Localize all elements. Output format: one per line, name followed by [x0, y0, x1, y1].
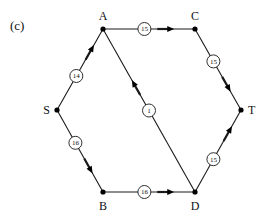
node-B: B	[99, 189, 107, 213]
node-label: A	[99, 9, 108, 23]
node-A: A	[99, 9, 108, 32]
node-S: S	[43, 103, 59, 117]
arrowhead-icon	[167, 189, 174, 195]
node-label: S	[43, 103, 50, 117]
node-T: T	[238, 103, 256, 117]
node-dot	[100, 26, 105, 31]
node-label: C	[191, 9, 199, 23]
edges-group: 1415151616151	[57, 23, 241, 199]
edge-weight-label: 1	[147, 107, 151, 115]
edge-weight-label: 15	[210, 58, 218, 66]
edge-C-T: 15	[195, 29, 241, 110]
node-label: B	[99, 199, 107, 213]
edge-weight-label: 15	[210, 156, 218, 164]
edge-B-D: 16	[103, 186, 195, 199]
node-dot	[192, 189, 197, 194]
edge-weight-label: 15	[141, 25, 149, 33]
node-D: D	[191, 189, 200, 213]
node-C: C	[191, 9, 199, 32]
panel-label: (c)	[10, 18, 24, 33]
node-dot	[238, 107, 243, 112]
flow-network-diagram: (c) 1415151616151 ACSTBD	[0, 0, 267, 220]
edge-D-T: 15	[195, 110, 241, 192]
node-label: D	[191, 199, 200, 213]
edge-D-A: 1	[103, 29, 195, 192]
node-label: T	[248, 103, 256, 117]
node-dot	[192, 26, 197, 31]
node-dot	[54, 107, 59, 112]
edge-weight-label: 16	[72, 139, 80, 147]
edge-S-B: 16	[57, 110, 103, 192]
edge-A-C: 15	[103, 23, 195, 36]
edge-weight-label: 16	[141, 188, 149, 196]
edge-S-A: 14	[57, 29, 103, 110]
node-dot	[100, 189, 105, 194]
edge-weight-label: 14	[73, 72, 81, 80]
arrowhead-icon	[167, 26, 174, 32]
